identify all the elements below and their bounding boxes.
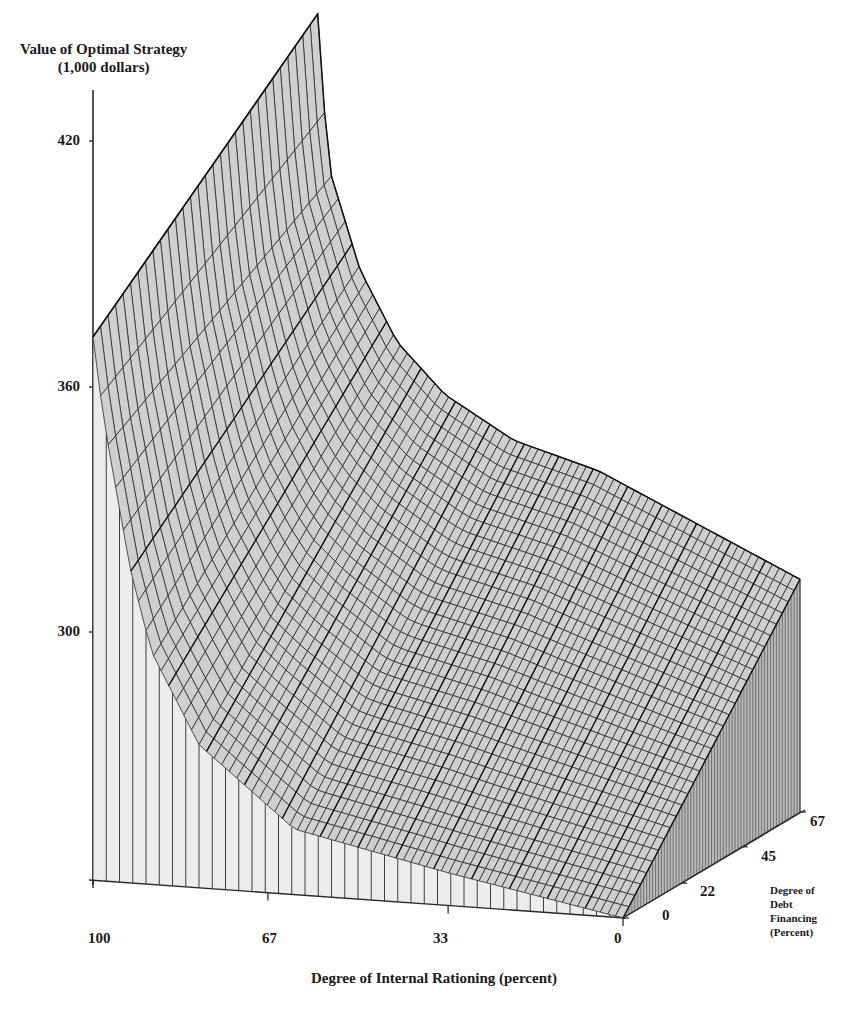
y-axis-title-line1: Degree of xyxy=(770,883,817,897)
y-tick-22: 22 xyxy=(700,883,715,900)
z-tick-360: 360 xyxy=(40,378,80,395)
y-axis-title-line4: (Percent) xyxy=(770,925,817,939)
z-axis-title-line1: Value of Optimal Strategy xyxy=(20,40,187,58)
x-tick-33: 33 xyxy=(433,930,448,947)
x-axis-title: Degree of Internal Rationing (percent) xyxy=(0,970,868,987)
y-tick-67: 67 xyxy=(810,813,825,830)
y-tick-0: 0 xyxy=(662,907,670,924)
z-tick-420: 420 xyxy=(40,132,80,149)
surface-plot xyxy=(0,0,868,1015)
z-tick-300: 300 xyxy=(40,623,80,640)
z-axis-title: Value of Optimal Strategy (1,000 dollars… xyxy=(20,40,187,76)
y-axis-title: Degree of Debt Financing (Percent) xyxy=(770,883,817,939)
x-tick-0: 0 xyxy=(614,930,622,947)
z-axis-title-line2: (1,000 dollars) xyxy=(20,58,187,76)
x-tick-100: 100 xyxy=(88,930,111,947)
y-axis-title-line3: Financing xyxy=(770,911,817,925)
y-axis-title-line2: Debt xyxy=(770,897,817,911)
y-tick-45: 45 xyxy=(761,848,776,865)
x-tick-67: 67 xyxy=(262,930,277,947)
